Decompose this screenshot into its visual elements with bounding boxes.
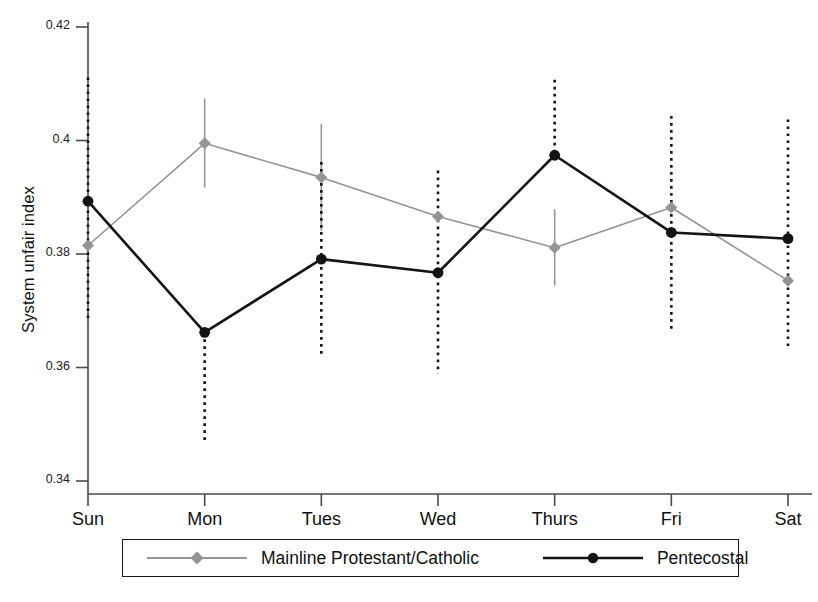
x-tick-label: Thurs — [495, 509, 615, 530]
data-series — [82, 137, 794, 337]
x-tick-label: Mon — [145, 509, 265, 530]
data-point-marker — [665, 201, 677, 213]
y-axis-label: System unfair index — [19, 150, 38, 370]
chart-legend: Mainline Protestant/Catholic Pentecostal — [122, 539, 739, 577]
legend-swatch-pentecostal-icon — [541, 548, 645, 568]
x-tick-label: Fri — [611, 509, 731, 530]
data-point-marker — [316, 254, 327, 265]
data-point-marker — [83, 196, 94, 207]
legend-label-pentecostal: Pentecostal — [657, 548, 748, 569]
data-point-marker — [782, 275, 794, 287]
x-tick-label: Sat — [728, 509, 818, 530]
data-point-marker — [315, 171, 327, 183]
chart-figure: System unfair index 0.340.360.380.40.42 … — [0, 0, 818, 602]
data-point-marker — [549, 150, 560, 161]
data-point-marker — [783, 233, 794, 244]
data-point-marker — [549, 242, 561, 254]
legend-item-pentecostal: Pentecostal — [541, 540, 748, 576]
x-tick-label: Wed — [378, 509, 498, 530]
data-point-marker — [666, 227, 677, 238]
y-tick-label: 0.38 — [0, 245, 70, 259]
axes — [88, 22, 812, 494]
y-axis-ticks — [76, 27, 88, 481]
y-tick-label: 0.34 — [0, 472, 70, 486]
y-tick-label: 0.36 — [0, 359, 70, 373]
data-point-marker — [199, 327, 210, 338]
error-bars — [88, 78, 788, 441]
x-axis-ticks — [88, 494, 788, 506]
x-tick-label: Tues — [261, 509, 381, 530]
y-tick-label: 0.4 — [0, 132, 70, 146]
x-tick-label: Sun — [28, 509, 148, 530]
legend-swatch-mainline-icon — [145, 548, 249, 568]
legend-item-mainline-protestant-catholic: Mainline Protestant/Catholic — [145, 540, 479, 576]
legend-label-mainline: Mainline Protestant/Catholic — [261, 548, 479, 569]
data-point-marker — [432, 211, 444, 223]
data-point-marker — [433, 267, 444, 278]
y-tick-label: 0.42 — [0, 18, 70, 32]
